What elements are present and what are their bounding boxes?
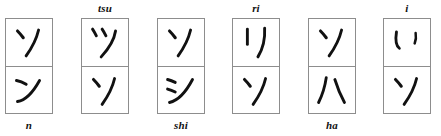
kana-glyph-so-icon xyxy=(6,19,52,66)
kana-cell-5-bottom xyxy=(309,67,355,115)
romaji-label-5: ha xyxy=(308,119,356,132)
kana-cell-5-top xyxy=(309,19,355,67)
kana-cell-4-top xyxy=(233,19,279,67)
kana-glyph-so-icon xyxy=(233,67,279,115)
kana-cell-6-top xyxy=(384,19,430,67)
kana-cell-1-top xyxy=(6,19,52,67)
kana-glyph-so-icon xyxy=(158,19,204,66)
kana-box-6 xyxy=(383,18,431,114)
kana-glyph-shi-icon xyxy=(158,67,204,115)
kana-cell-3-bottom xyxy=(158,67,204,115)
kana-glyph-i-icon xyxy=(384,19,430,66)
romaji-label-2: tsu xyxy=(81,2,129,15)
kana-box-5 xyxy=(308,18,356,114)
kana-box-4 xyxy=(232,18,280,114)
romaji-label-1: n xyxy=(5,119,53,132)
kana-cell-4-bottom xyxy=(233,67,279,115)
kana-glyph-so-icon xyxy=(309,19,355,66)
kana-cell-6-bottom xyxy=(384,67,430,115)
kana-glyph-ha-icon xyxy=(309,67,355,115)
kana-box-2 xyxy=(81,18,129,114)
kana-glyph-ri-icon xyxy=(233,19,279,66)
kana-comparison-figure: n tsu xyxy=(0,0,441,136)
kana-cell-3-top xyxy=(158,19,204,67)
kana-box-1 xyxy=(5,18,53,114)
kana-cell-1-bottom xyxy=(6,67,52,115)
romaji-label-4: ri xyxy=(232,2,280,15)
kana-glyph-so-icon xyxy=(384,67,430,115)
kana-glyph-n-icon xyxy=(6,67,52,115)
kana-cell-2-bottom xyxy=(82,67,128,115)
kana-glyph-so-icon xyxy=(82,67,128,115)
kana-cell-2-top xyxy=(82,19,128,67)
kana-glyph-tsu-icon xyxy=(82,19,128,66)
romaji-label-3: shi xyxy=(157,119,205,132)
romaji-label-6: i xyxy=(383,2,431,15)
kana-box-3 xyxy=(157,18,205,114)
